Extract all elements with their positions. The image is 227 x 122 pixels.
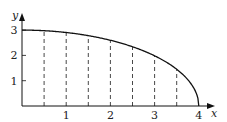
y-tick-label: 3 (11, 24, 18, 37)
x-tick-labels: 1234 (63, 109, 203, 122)
x-tick-label: 4 (195, 109, 202, 122)
x-tick-label: 1 (63, 109, 70, 122)
y-tick-label: 1 (11, 75, 18, 88)
x-tick-label: 3 (151, 109, 158, 122)
chart: y x 1234 123 (0, 0, 227, 122)
x-tick-label: 2 (107, 109, 114, 122)
y-axis-label: y (11, 9, 19, 22)
y-tick-label: 2 (11, 49, 18, 62)
y-axis-arrow-icon (19, 13, 25, 21)
y-tick-labels: 123 (11, 24, 27, 88)
dashed-vertical-lines (44, 31, 177, 106)
x-axis-label: x (211, 107, 218, 120)
